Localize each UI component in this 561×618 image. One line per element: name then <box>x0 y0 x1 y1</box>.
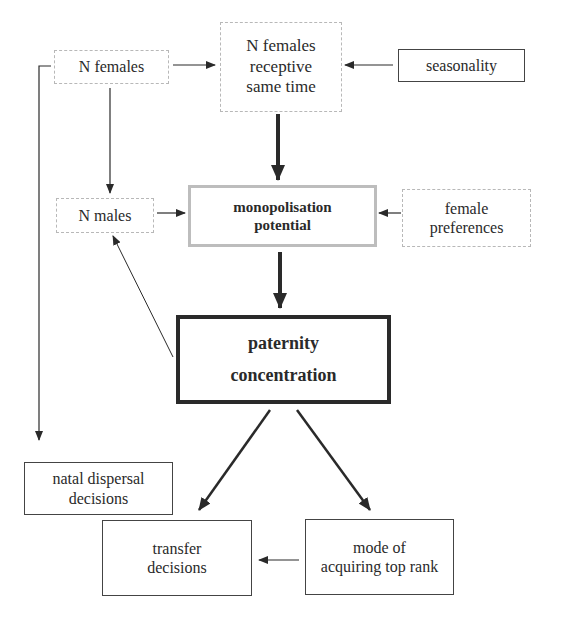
node-seasonality: seasonality <box>398 49 525 82</box>
node-natal-dispersal-decisions: natal dispersal decisions <box>24 462 173 515</box>
node-transfer-decisions: transfer decisions <box>102 520 252 596</box>
node-n-females-receptive: N females receptive same time <box>220 22 342 112</box>
arrow-paternity-to-transfer <box>199 410 270 510</box>
arrow-paternity-to-nmales <box>113 236 173 357</box>
node-n-females: N females <box>54 50 169 84</box>
node-n-males: N males <box>56 198 154 233</box>
node-monopolisation-potential: monopolisation potential <box>188 185 377 247</box>
arrow-paternity-to-mode <box>297 410 370 510</box>
node-mode-of-acquiring-top-rank: mode of acquiring top rank <box>305 519 454 595</box>
node-label: N females <box>79 57 144 76</box>
arrow-nfemales-to-natal <box>39 66 51 440</box>
node-female-preferences: female preferences <box>402 189 531 247</box>
node-paternity-concentration: paternity concentration <box>176 315 391 404</box>
